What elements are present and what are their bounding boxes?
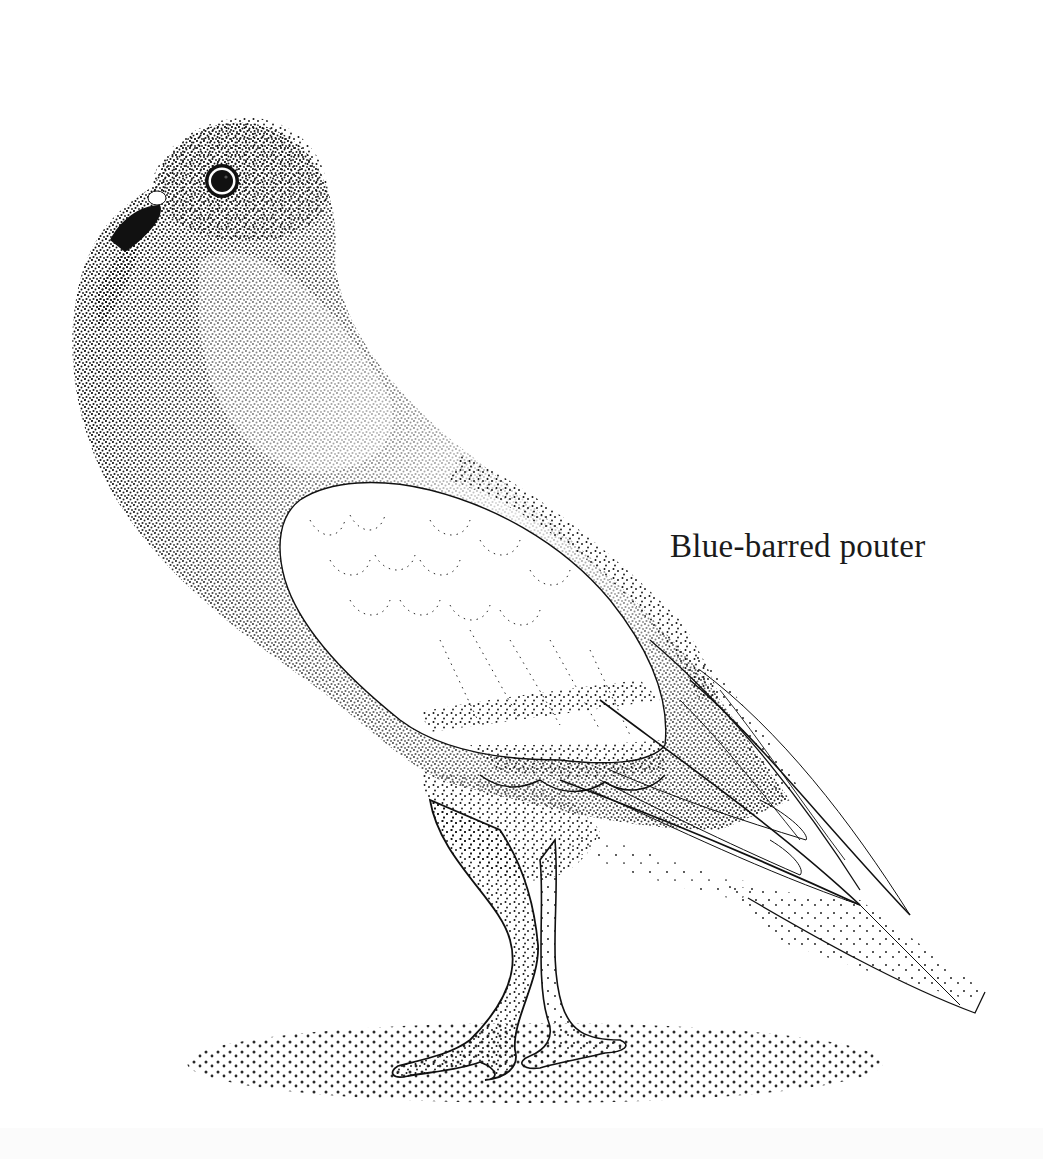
pigeon-illustration [0,0,1043,1159]
page-bottom-margin [0,1128,1043,1159]
figure-caption: Blue-barred pouter [670,528,926,565]
illustration-page: Blue-barred pouter [0,0,1043,1159]
beak [148,191,166,205]
eye [211,170,233,192]
tail [720,885,985,1013]
